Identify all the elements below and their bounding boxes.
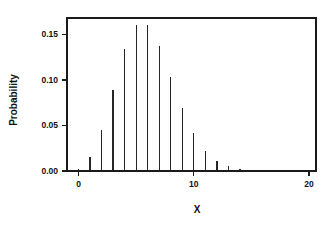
x-axis-title: X <box>194 204 201 215</box>
y-tick-label: 0.15 <box>41 29 58 39</box>
x-axis-tick-labels: 01020 <box>76 179 314 189</box>
y-axis-ticks <box>62 34 67 171</box>
plot-frame <box>67 18 316 171</box>
y-tick-label: 0.05 <box>41 120 58 130</box>
axes-frame <box>67 18 316 171</box>
x-tick-label: 0 <box>76 179 81 189</box>
probability-distribution-chart: 01020 0.000.050.100.15 X Probability <box>0 0 327 226</box>
chart-screenshot: 01020 0.000.050.100.15 X Probability <box>0 0 327 226</box>
y-tick-label: 0.10 <box>41 75 58 85</box>
y-tick-label: 0.00 <box>41 166 58 176</box>
y-axis-tick-labels: 0.000.050.100.15 <box>41 29 58 176</box>
x-tick-label: 10 <box>189 179 199 189</box>
stem-series <box>79 25 298 171</box>
x-tick-label: 20 <box>304 179 314 189</box>
x-axis-ticks <box>79 171 310 176</box>
y-axis-title: Probability <box>8 74 19 126</box>
